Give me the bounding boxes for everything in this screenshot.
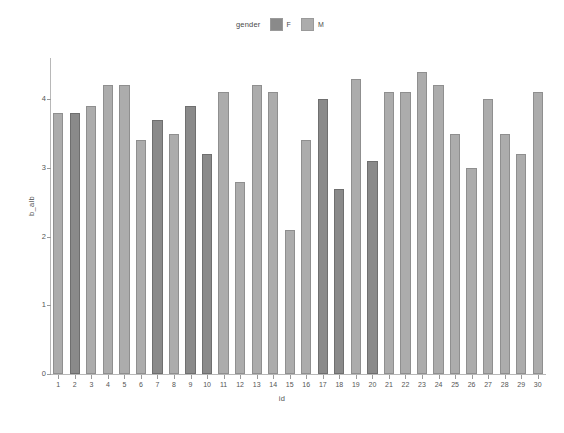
- y-axis-line: [50, 58, 51, 375]
- x-tick-label: 10: [203, 381, 211, 389]
- x-tick: [422, 375, 423, 379]
- bar-chart: gender F M b_alb id 01234 12345678910111…: [0, 0, 564, 433]
- x-tick: [505, 375, 506, 379]
- bar: [285, 230, 295, 374]
- x-tick: [91, 375, 92, 379]
- x-tick: [174, 375, 175, 379]
- bar: [53, 113, 63, 374]
- bar: [384, 92, 394, 374]
- bar: [136, 140, 146, 374]
- bar: [351, 79, 361, 374]
- x-tick: [372, 375, 373, 379]
- x-tick-label: 9: [189, 381, 193, 389]
- x-tick-label: 11: [220, 381, 227, 389]
- bar: [466, 168, 476, 374]
- x-tick: [240, 375, 241, 379]
- bar: [483, 99, 493, 374]
- x-tick: [273, 375, 274, 379]
- y-tick: [47, 99, 51, 100]
- bar: [218, 92, 228, 374]
- x-tick-label: 8: [172, 381, 176, 389]
- x-tick: [290, 375, 291, 379]
- x-tick: [207, 375, 208, 379]
- y-tick-label: 0: [34, 369, 46, 378]
- y-tick-label: 4: [34, 94, 46, 103]
- x-tick-label: 1: [56, 381, 60, 389]
- x-tick: [306, 375, 307, 379]
- x-tick-label: 26: [468, 381, 476, 389]
- bar: [516, 154, 526, 374]
- y-tick-label: 2: [34, 232, 46, 241]
- x-tick: [455, 375, 456, 379]
- x-tick-label: 18: [335, 381, 343, 389]
- x-tick-label: 24: [435, 381, 443, 389]
- legend-swatch-f: [270, 18, 283, 31]
- x-tick: [356, 375, 357, 379]
- bar: [533, 92, 543, 374]
- bar: [202, 154, 212, 374]
- x-tick: [224, 375, 225, 379]
- x-tick-label: 3: [89, 381, 93, 389]
- x-tick: [521, 375, 522, 379]
- bar: [450, 134, 460, 374]
- legend-entry-m: M: [301, 18, 324, 31]
- x-tick: [75, 375, 76, 379]
- bar: [185, 106, 195, 374]
- y-tick: [47, 305, 51, 306]
- bar: [400, 92, 410, 374]
- x-tick-label: 6: [139, 381, 143, 389]
- bar: [119, 85, 129, 374]
- x-tick-label: 19: [352, 381, 360, 389]
- x-tick-label: 13: [253, 381, 261, 389]
- x-tick-label: 17: [319, 381, 327, 389]
- bar: [318, 99, 328, 374]
- y-tick: [47, 237, 51, 238]
- x-tick-label: 5: [122, 381, 126, 389]
- x-tick-label: 20: [368, 381, 376, 389]
- bar: [103, 85, 113, 374]
- y-tick: [47, 168, 51, 169]
- bar: [169, 134, 179, 374]
- bar: [152, 120, 162, 374]
- legend-swatch-m: [301, 18, 314, 31]
- x-tick: [389, 375, 390, 379]
- legend-label-f: F: [287, 21, 291, 28]
- x-tick-label: 15: [286, 381, 294, 389]
- x-tick: [323, 375, 324, 379]
- x-tick: [191, 375, 192, 379]
- y-axis-label: b_alb: [27, 196, 36, 216]
- x-tick-label: 25: [451, 381, 459, 389]
- x-tick: [108, 375, 109, 379]
- x-tick-label: 2: [73, 381, 77, 389]
- x-tick-label: 7: [156, 381, 160, 389]
- x-tick-label: 27: [484, 381, 492, 389]
- x-tick-label: 23: [418, 381, 426, 389]
- x-tick-label: 12: [236, 381, 244, 389]
- bar: [301, 140, 311, 374]
- bar: [433, 85, 443, 374]
- x-tick: [124, 375, 125, 379]
- x-tick-label: 21: [385, 381, 393, 389]
- x-tick-label: 22: [402, 381, 410, 389]
- plot-area: 01234 1234567891011121314151617181920212…: [50, 58, 546, 375]
- bar: [367, 161, 377, 374]
- x-tick: [405, 375, 406, 379]
- bar: [70, 113, 80, 374]
- bar: [417, 72, 427, 374]
- x-tick: [339, 375, 340, 379]
- bar: [235, 182, 245, 374]
- bar: [86, 106, 96, 374]
- bar: [268, 92, 278, 374]
- bar: [334, 189, 344, 374]
- legend-title: gender: [236, 20, 261, 29]
- y-tick: [47, 374, 51, 375]
- x-tick-label: 30: [534, 381, 542, 389]
- x-tick: [257, 375, 258, 379]
- bar: [500, 134, 510, 374]
- x-tick-label: 16: [302, 381, 310, 389]
- legend: gender F M: [0, 18, 564, 31]
- x-tick-label: 28: [501, 381, 509, 389]
- bar: [252, 85, 262, 374]
- x-tick: [439, 375, 440, 379]
- y-tick-label: 3: [34, 163, 46, 172]
